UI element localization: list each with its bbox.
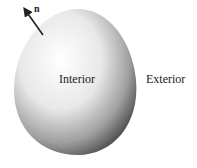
normal-vector-arrow	[26, 11, 43, 35]
exterior-label: Exterior	[146, 72, 185, 87]
interior-label: Interior	[59, 72, 95, 87]
normal-vector-label: n	[34, 3, 40, 14]
